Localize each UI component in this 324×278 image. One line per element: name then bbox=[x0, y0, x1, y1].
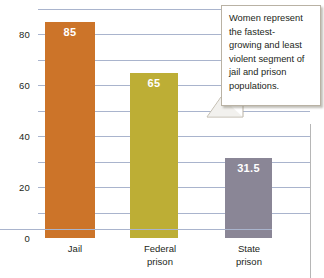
callout-line-4: violent segment of bbox=[229, 54, 304, 64]
x-label-state-prison-line2: prison bbox=[199, 256, 299, 269]
x-label-federal-prison-line2: prison bbox=[110, 256, 210, 269]
y-tick-label-80: 80 bbox=[0, 29, 30, 40]
bar-chart: 85 65 31.5 0 20 40 60 80 Jail Federal pr… bbox=[0, 0, 324, 278]
y-tick-label-20: 20 bbox=[0, 182, 30, 193]
x-label-federal-prison-line1: Federal bbox=[144, 243, 176, 254]
x-label-state-prison-line1: State bbox=[238, 243, 260, 254]
right-vertical-rule bbox=[310, 124, 311, 278]
x-label-state-prison: State prison bbox=[199, 243, 299, 268]
y-tick-label-40: 40 bbox=[0, 131, 30, 142]
y-tick-label-0: 0 bbox=[0, 233, 30, 244]
bar-value-label-state-prison: 31.5 bbox=[225, 162, 272, 174]
bar-value-label-federal-prison: 65 bbox=[130, 77, 178, 89]
bar-jail[interactable]: 85 bbox=[45, 22, 95, 238]
x-label-jail-line1: Jail bbox=[68, 243, 82, 254]
callout-line-3: growing and least bbox=[229, 40, 302, 50]
callout-line-1: Women represent bbox=[229, 13, 303, 23]
y-tick-label-60: 60 bbox=[0, 80, 30, 91]
callout-box: Women represent the fastest- growing and… bbox=[221, 5, 321, 106]
x-label-federal-prison: Federal prison bbox=[110, 243, 210, 268]
bar-value-label-jail: 85 bbox=[45, 26, 95, 38]
bar-federal-prison[interactable]: 65 bbox=[130, 73, 178, 238]
x-axis-baseline bbox=[0, 229, 272, 230]
callout-line-2: the fastest- bbox=[229, 27, 275, 37]
callout-line-6: populations. bbox=[229, 81, 279, 91]
bar-state-prison[interactable]: 31.5 bbox=[225, 158, 272, 238]
callout-text: Women represent the fastest- growing and… bbox=[229, 12, 317, 94]
callout-line-5: jail and prison bbox=[229, 67, 286, 77]
